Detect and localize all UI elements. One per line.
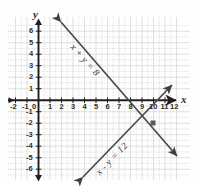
x-tick-label-7: 7 [117,103,121,111]
y-tick-label--4: -4 [26,142,33,150]
y-tick-label-4: 4 [29,50,33,58]
y-tick-label-2: 2 [29,73,33,81]
y-tick-label--6: -6 [26,165,33,173]
x-tick-label--2: -2 [10,103,17,111]
x-tick-label-3: 3 [71,103,75,111]
y-tick-label-6: 6 [29,27,33,35]
x-tick-label-11: 11 [161,103,169,111]
graph-screenshot: y x -2 -1 0 1 2 3 4 5 6 7 8 9 10 11 12 6… [0,0,198,186]
y-tick-label--1: -1 [26,108,33,116]
y-tick-label-1: 1 [29,85,33,93]
y-tick-label--5: -5 [26,154,33,162]
x-tick-label-1: 1 [48,103,52,111]
x-tick-label-2: 2 [60,103,64,111]
x-tick-label-9: 9 [140,103,144,111]
y-tick-label-3: 3 [29,62,33,70]
y-tick-label--2: -2 [26,119,33,127]
y-axis-label: y [33,8,38,20]
x-tick-label-8: 8 [129,103,133,111]
x-tick-label-4: 4 [83,103,87,111]
x-tick-label-10: 10 [149,103,157,111]
intersection-point-marker [151,121,156,126]
x-axis-label: x [181,93,187,105]
y-axis-bottom-arrow [35,175,42,182]
x-tick-label-6: 6 [106,103,110,111]
x-tick-label-5: 5 [94,103,98,111]
y-tick-label--3: -3 [26,131,33,139]
y-tick-label-5: 5 [29,39,33,47]
x-tick-label-12: 12 [170,103,178,111]
